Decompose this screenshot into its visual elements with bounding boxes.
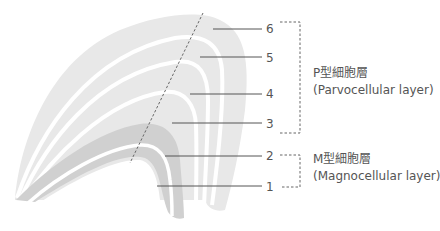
layer-number-4: 4 [266, 87, 274, 101]
layer-number-6: 6 [266, 22, 274, 36]
layer-number-5: 5 [266, 51, 274, 65]
layer-number-1: 1 [266, 180, 274, 194]
parvo-title: P型細胞層 [313, 65, 434, 82]
parvo-subtitle: (Parvocellular layer) [313, 82, 434, 99]
magno-title: M型細胞層 [313, 151, 440, 168]
magno-bracket [280, 155, 300, 187]
magno-label: M型細胞層 (Magnocellular layer) [313, 151, 440, 185]
layer-number-3: 3 [266, 117, 274, 131]
parvo-label: P型細胞層 (Parvocellular layer) [313, 65, 434, 99]
layer-number-2: 2 [266, 149, 274, 163]
parvo-bracket [280, 22, 300, 133]
magno-subtitle: (Magnocellular layer) [313, 168, 440, 185]
